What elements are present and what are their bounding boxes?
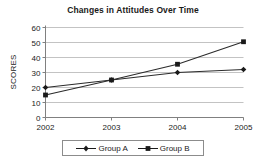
y-tick-labels: 0102030405060 bbox=[32, 24, 41, 123]
data-point-marker bbox=[109, 78, 114, 83]
legend-label-group-b: Group B bbox=[160, 144, 190, 153]
data-series bbox=[43, 39, 247, 97]
plot-area: 0102030405060 2002200320042005 bbox=[0, 0, 266, 163]
y-tick-label: 60 bbox=[32, 24, 41, 33]
legend-item-group-a: Group A bbox=[76, 144, 127, 153]
x-tick-label: 2005 bbox=[235, 123, 253, 132]
data-point-marker bbox=[175, 62, 180, 67]
y-tick-label: 30 bbox=[32, 69, 41, 78]
square-marker-icon bbox=[138, 144, 158, 153]
x-tick-label: 2003 bbox=[103, 123, 121, 132]
legend-label-group-a: Group A bbox=[98, 144, 127, 153]
y-tick-label: 40 bbox=[32, 54, 41, 63]
x-tick-label: 2004 bbox=[169, 123, 187, 132]
data-point-marker bbox=[241, 39, 246, 44]
y-tick-label: 0 bbox=[36, 114, 41, 123]
x-tick-label: 2002 bbox=[37, 123, 55, 132]
data-point-marker bbox=[175, 70, 181, 76]
y-tick-label: 10 bbox=[32, 99, 41, 108]
series-line-group-b bbox=[46, 42, 244, 95]
y-tick-label: 20 bbox=[32, 84, 41, 93]
chart-legend: Group A Group B bbox=[62, 140, 204, 156]
diamond-marker-icon bbox=[76, 144, 96, 153]
data-point-marker bbox=[241, 67, 247, 73]
data-point-marker bbox=[43, 93, 48, 98]
legend-item-group-b: Group B bbox=[138, 144, 190, 153]
x-tick-labels: 2002200320042005 bbox=[37, 123, 253, 132]
line-chart: Changes in Attitudes Over Time SCORES 01… bbox=[0, 0, 266, 163]
data-point-marker bbox=[43, 85, 49, 91]
y-tick-label: 50 bbox=[32, 39, 41, 48]
